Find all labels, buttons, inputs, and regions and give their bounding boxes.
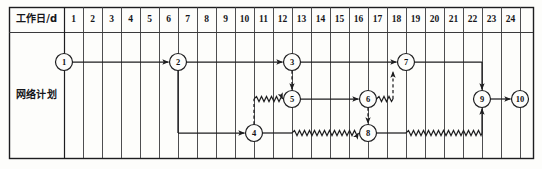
network-node-10[interactable]: [512, 91, 529, 108]
network-node-3[interactable]: [284, 54, 301, 71]
arrow-8-to-9: [377, 109, 483, 136]
arrow-4-to-8: [263, 130, 359, 135]
network-node-6[interactable]: [360, 91, 377, 108]
network-node-4[interactable]: [246, 125, 263, 142]
network-node-1[interactable]: [56, 54, 73, 71]
figure-sheet: 工作日/d 网络计划 12345678910111213141516171819…: [0, 0, 542, 169]
arrow-6-to-7: [377, 72, 394, 102]
network-node-9[interactable]: [474, 91, 491, 108]
network-schedule-figure: 工作日/d 网络计划 12345678910111213141516171819…: [0, 0, 542, 169]
network-arrow-layer: [0, 0, 542, 169]
network-node-8[interactable]: [360, 125, 377, 142]
network-node-5[interactable]: [284, 91, 301, 108]
arrow-4-to-5: [254, 96, 283, 124]
network-node-7[interactable]: [398, 54, 415, 71]
arrow-2-to-4: [178, 71, 245, 134]
network-node-2[interactable]: [170, 54, 187, 71]
arrow-7-to-9: [415, 62, 483, 90]
